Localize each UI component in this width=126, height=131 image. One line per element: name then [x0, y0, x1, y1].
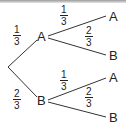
svg-text:3: 3 [61, 16, 67, 27]
prob-label-A-A: 1 3 [60, 4, 68, 27]
prob-label-root-A: 1 3 [13, 24, 21, 47]
node-B-level1: B [37, 93, 46, 108]
svg-text:3: 3 [86, 37, 92, 48]
edge-B-B [48, 102, 106, 117]
edge-A-A [48, 16, 106, 36]
svg-text:3: 3 [14, 36, 20, 47]
node-A-level1: A [37, 29, 46, 44]
node-A-A: A [109, 9, 118, 24]
node-B-B: B [109, 110, 118, 125]
prob-label-B-A: 1 3 [60, 69, 68, 92]
prob-label-A-B: 2 3 [85, 25, 93, 48]
svg-text:2: 2 [86, 25, 92, 36]
svg-text:3: 3 [14, 100, 20, 111]
node-A-B: B [109, 48, 118, 63]
svg-text:3: 3 [61, 81, 67, 92]
edge-B-A [48, 78, 106, 100]
probability-tree: A B A B A B 1 3 2 3 1 3 2 3 1 3 2 3 [0, 0, 126, 131]
svg-text:1: 1 [61, 69, 67, 80]
svg-text:2: 2 [86, 86, 92, 97]
edge-root-A [8, 40, 37, 67]
prob-label-B-B: 2 3 [85, 86, 93, 109]
svg-text:2: 2 [14, 88, 20, 99]
node-B-A: A [109, 70, 118, 85]
svg-text:1: 1 [14, 24, 20, 35]
edge-A-B [48, 38, 106, 55]
svg-text:3: 3 [86, 98, 92, 109]
edge-root-B [8, 67, 37, 97]
svg-text:1: 1 [61, 4, 67, 15]
prob-label-root-B: 2 3 [13, 88, 21, 111]
